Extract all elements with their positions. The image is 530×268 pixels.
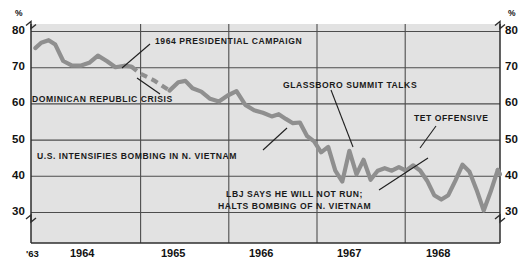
annotation-dominican-republic-crisis: DOMINICAN REPUBLIC CRISIS: [32, 94, 173, 105]
y-axis-unit-right: %: [508, 8, 516, 18]
y-tick-left-60: 60: [12, 96, 25, 108]
approval-rating-chart: % % 80 70 60 50 40 30 80 70 60 50 40 30 …: [0, 0, 530, 268]
approval-line-solid-3: [498, 170, 500, 174]
annotation-tet-offensive: TET OFFENSIVE: [414, 113, 488, 124]
x-tick-1964: 1964: [70, 247, 94, 259]
y-tick-right-50: 50: [505, 133, 518, 145]
annotation-lbj-line-2: HALTS BOMBING OF N. VIETNAM: [218, 201, 371, 213]
annotation-lbj-line-1: LBJ SAYS HE WILL NOT RUN;: [218, 189, 371, 201]
x-tick-1967: 1967: [337, 247, 361, 259]
y-tick-left-80: 80: [12, 24, 25, 36]
x-tick-1968: 1968: [426, 247, 450, 259]
annotation-presidential-campaign: 1964 PRESIDENTIAL CAMPAIGN: [155, 36, 302, 47]
y-tick-right-80: 80: [505, 24, 518, 36]
y-tick-right-60: 60: [505, 96, 518, 108]
y-tick-right-40: 40: [505, 169, 518, 181]
x-tick-1966: 1966: [249, 247, 273, 259]
y-tick-right-30: 30: [505, 205, 518, 217]
y-tick-left-30: 30: [12, 205, 25, 217]
annotation-lbj-will-not-run: LBJ SAYS HE WILL NOT RUN; HALTS BOMBING …: [218, 189, 371, 212]
y-tick-right-70: 70: [505, 60, 518, 72]
y-tick-left-40: 40: [12, 169, 25, 181]
annotation-us-intensifies-bombing: U.S. INTENSIFIES BOMBING IN N. VIETNAM: [37, 151, 237, 162]
x-tick-1965: 1965: [161, 247, 185, 259]
y-tick-left-50: 50: [12, 133, 25, 145]
annotation-glassboro-summit-talks: GLASSBORO SUMMIT TALKS: [283, 80, 417, 91]
y-tick-left-70: 70: [12, 60, 25, 72]
x-tick-63: '63: [26, 248, 39, 259]
y-axis-unit-left: %: [15, 8, 23, 18]
